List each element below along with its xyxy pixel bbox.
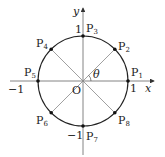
x-axis-label: x [145, 82, 152, 95]
label-p5: P5 [24, 66, 36, 80]
svg-text:P8: P8 [118, 114, 130, 128]
svg-text:P5: P5 [24, 66, 36, 80]
svg-text:P1: P1 [131, 66, 143, 80]
svg-text:P2: P2 [118, 40, 130, 54]
tick-y-neg: −1 [67, 129, 83, 142]
tick-y-pos: 1 [75, 23, 82, 36]
label-p2: P2 [118, 40, 130, 54]
y-axis-label: y [72, 5, 80, 18]
angle-arc [89, 75, 91, 81]
point-p8 [113, 111, 117, 115]
origin-label: O [72, 84, 81, 97]
point-p4 [49, 47, 53, 51]
label-p6: P6 [36, 114, 48, 128]
svg-text:P4: P4 [36, 37, 48, 51]
unit-circle-diagram: y x 1 1 −1 −1 O θ P1 P2 P3 P4 P5 P6 P7 P… [0, 0, 165, 157]
svg-text:P3: P3 [86, 22, 98, 36]
svg-text:P7: P7 [86, 130, 98, 144]
svg-text:P6: P6 [36, 114, 48, 128]
label-p8: P8 [118, 114, 130, 128]
point-p5 [36, 79, 40, 83]
label-p1: P1 [131, 66, 143, 80]
label-p3: P3 [86, 22, 98, 36]
point-p2 [113, 47, 117, 51]
label-p4: P4 [36, 37, 48, 51]
tick-x-neg: −1 [8, 83, 24, 96]
point-p7 [81, 124, 85, 128]
theta-label: θ [93, 68, 100, 81]
point-p6 [49, 111, 53, 115]
tick-x-pos: 1 [130, 82, 137, 95]
label-p7: P7 [86, 130, 98, 144]
